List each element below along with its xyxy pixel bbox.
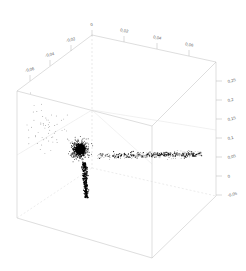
scatter-point (126, 154, 127, 155)
scatter-point (180, 153, 181, 154)
scatter-point (132, 154, 133, 155)
scatter-point (198, 154, 199, 155)
scatter-point (155, 154, 156, 155)
scatter-point (107, 154, 108, 155)
scatter-point (82, 145, 84, 147)
scatter-point (88, 144, 89, 145)
scatter-point (78, 155, 79, 156)
y-tick-label-2: 0,06 (185, 41, 195, 48)
cube-edge-bottom-back-left (17, 168, 92, 218)
scatter-point (148, 152, 149, 153)
scatter-point (188, 152, 189, 153)
scatter-point (45, 125, 46, 126)
scatter-point (91, 143, 92, 144)
scatter-point (143, 156, 144, 157)
scatter-point (85, 150, 86, 151)
scatter-point (85, 146, 86, 147)
scatter-point (88, 152, 89, 153)
scatter-point (174, 151, 175, 152)
scatter-point (155, 155, 156, 156)
z-axis-ticks (216, 81, 222, 195)
scatter-point (73, 145, 74, 146)
scatter-point (112, 156, 113, 157)
scatter-point (156, 155, 157, 156)
scatter-point (117, 157, 118, 158)
scatter-point (85, 189, 86, 190)
x-tick-label-0: -0,06 (24, 66, 35, 73)
scatter-point (80, 145, 82, 147)
scatter-point (113, 154, 114, 155)
scatter-point (85, 195, 86, 196)
scatter-point (62, 130, 63, 131)
scatter-point (181, 158, 182, 159)
scatter-point (117, 156, 118, 157)
scatter-point (181, 151, 182, 152)
scatter-point (70, 142, 71, 143)
scatter-point (75, 139, 76, 140)
scatter-point (136, 156, 137, 157)
scatter-point (40, 123, 41, 124)
scatter-point (35, 136, 36, 137)
scatter-point (142, 156, 143, 157)
scatter-point (187, 151, 188, 152)
scatter-point (170, 156, 171, 157)
scatter-point (76, 152, 77, 153)
scatter-point (48, 124, 49, 125)
scatter-point (72, 146, 73, 147)
scatter-point (28, 143, 29, 144)
scatter-point (79, 158, 80, 159)
scatter-point (88, 157, 89, 158)
scatter-point (140, 156, 141, 157)
scatter-point (168, 157, 169, 158)
scatter-point (176, 152, 177, 153)
scatter-point (108, 153, 109, 154)
scatter-point (84, 187, 85, 188)
scatter-point (79, 143, 80, 144)
scatter-point (40, 149, 41, 150)
scatter-point (156, 156, 157, 157)
scatter-point (109, 156, 110, 157)
scatter-point (132, 155, 133, 156)
scatter-point (189, 154, 190, 155)
scatter-point (41, 110, 42, 111)
scatter-point (192, 155, 193, 156)
scatter-point (74, 151, 75, 152)
scatter-point (83, 173, 84, 174)
scatter-point (177, 154, 178, 155)
scatter-point (77, 148, 79, 150)
scatter-point (76, 141, 77, 142)
scatter-point (182, 154, 183, 155)
scatter-point (83, 149, 85, 151)
scatter-point (136, 157, 137, 158)
scatter-point (107, 156, 108, 157)
scatter-point (81, 167, 82, 168)
scatter-point (98, 158, 99, 159)
cube-edge-top-front-left (17, 91, 152, 126)
x-axis-tick-labels: -0,06 -0,04 -0,02 0 (24, 22, 94, 73)
scatter-point (92, 145, 93, 146)
scatter-point (191, 151, 192, 152)
scatter-point (72, 153, 73, 154)
scatter-point (195, 151, 196, 152)
scatter-point (74, 159, 75, 160)
scatter-point (174, 153, 175, 154)
scatter-point (166, 154, 167, 155)
scatter-point (173, 158, 174, 159)
scatter-point (102, 153, 103, 154)
scatter-point (84, 148, 85, 149)
scatter-point (185, 155, 186, 156)
scatter-point (81, 140, 82, 141)
scatter-point (134, 155, 135, 156)
cube-wireframe (17, 35, 216, 258)
scatter-point (83, 166, 84, 167)
scatter-point (188, 150, 189, 151)
y-tick-label-1: 0,04 (153, 34, 163, 41)
scatter-point (84, 157, 85, 158)
scatter-point (75, 155, 76, 156)
scatter-point (153, 153, 154, 154)
scatter-point (159, 157, 160, 158)
scatter-point (106, 155, 107, 156)
scatter-point (87, 196, 88, 197)
x-axis-ticks (30, 30, 92, 81)
scatter-point (88, 155, 89, 156)
